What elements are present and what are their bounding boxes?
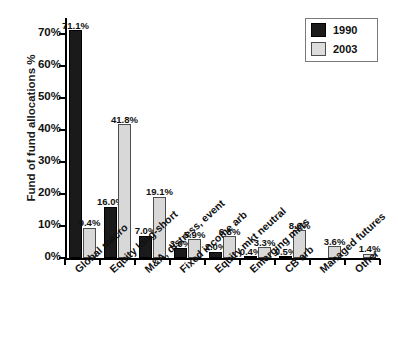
y-tick-label: 20% [38,186,61,198]
x-tick [204,259,206,265]
legend-label-2003: 2003 [333,43,357,55]
y-tick-label: 10% [38,218,61,230]
x-tick [309,259,311,265]
y-tick-label: 40% [38,122,61,134]
legend-item-1990: 1990 [311,23,357,37]
bar-value-label: 9.4% [79,218,101,228]
bar-chart: Fund of fund allocations % 0%10%20%30%40… [0,0,398,351]
x-tick [274,259,276,265]
legend-swatch-2003-icon [311,42,326,56]
x-tick [344,259,346,265]
bar-value-label: 19.1% [146,187,173,197]
legend-label-1990: 1990 [333,24,357,36]
legend-swatch-1990-icon [311,23,326,37]
y-tick-label: 60% [38,58,61,70]
legend: 1990 2003 [305,18,378,62]
y-tick-label: 30% [38,154,61,166]
x-tick [169,259,171,265]
y-axis-title: Fund of fund allocations % [25,13,37,243]
y-tick-label: 50% [38,90,61,102]
x-tick [134,259,136,265]
y-axis-line [65,18,67,258]
x-tick [99,259,101,265]
legend-item-2003: 2003 [311,42,357,56]
bar-value-label: 41.8% [111,115,138,125]
x-tick [239,259,241,265]
x-tick [379,259,381,265]
y-tick-label: 70% [38,26,61,38]
bar-value-label: 71.1% [62,21,89,31]
y-tick-label: 0% [44,250,61,262]
x-tick [64,259,66,265]
